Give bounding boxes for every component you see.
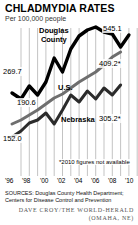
- x-axis-tick-0: '96: [5, 177, 13, 184]
- x-axis-tick-6: '08: [108, 177, 116, 184]
- value-label-douglas-end: 545.1: [102, 24, 123, 33]
- credit-line-1: DAVE CROY/THE WORLD-HERALD: [19, 207, 134, 213]
- x-axis: '96 '98 '00 '02 '04 '06 '08 '10: [0, 177, 138, 187]
- x-axis-tick-7: '10: [125, 177, 133, 184]
- x-axis-tick-4: '04: [74, 177, 82, 184]
- series-label-douglas-county-line2: County: [41, 35, 67, 44]
- chlamydia-rates-infographic: CHLADMYDIA RATES Per 100,000 people: [0, 0, 138, 225]
- chart-subtitle: Per 100,000 people: [5, 15, 66, 22]
- chart-plot-area: Douglas County U.S. Nebraska 269.7 545.1…: [0, 24, 138, 176]
- page-title: CHLADMYDIA RATES: [5, 2, 115, 14]
- series-label-nebraska: Nebraska: [61, 116, 95, 125]
- x-axis-tick-5: '06: [91, 177, 99, 184]
- x-axis-tick-2: '00: [40, 177, 48, 184]
- chart-footnote: *2010 figures not available: [58, 159, 131, 165]
- x-axis-tick-1: '98: [22, 177, 30, 184]
- sources-note: SOURCES: Douglas County Health Departmen…: [5, 190, 135, 204]
- series-label-douglas-county: Douglas County: [39, 27, 69, 44]
- value-label-us-end: 409.2*: [98, 59, 122, 68]
- value-label-douglas-start: 269.7: [2, 67, 23, 76]
- series-label-us: U.S.: [58, 84, 73, 93]
- value-label-us-start: 190.6: [16, 98, 37, 107]
- x-axis-tick-3: '02: [57, 177, 65, 184]
- credit-line: DAVE CROY/THE WORLD-HERALD (OMAHA, NE): [19, 207, 134, 222]
- value-label-nebraska-start: 152.0: [2, 134, 23, 143]
- value-label-nebraska-end: 305.2*: [98, 114, 122, 123]
- credit-line-2: (OMAHA, NE): [89, 215, 134, 221]
